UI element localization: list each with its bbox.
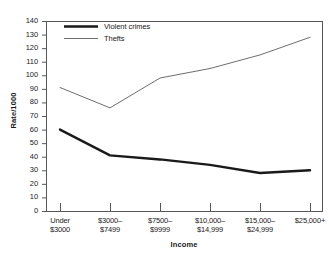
y-axis-tick-label: 120 <box>16 44 38 52</box>
y-axis-tick-label: 110 <box>16 58 38 66</box>
y-axis-tick-label: 100 <box>16 71 38 79</box>
legend-label-violent-crimes: Violent crimes <box>104 22 150 31</box>
y-axis-tick-label: 40 <box>16 153 38 161</box>
series-line-violent-crimes <box>60 130 310 173</box>
y-axis-tick-label: 70 <box>16 112 38 120</box>
y-axis-tick-label: 80 <box>16 98 38 106</box>
y-axis-tick-label: 50 <box>16 139 38 147</box>
y-axis-tick-label: 30 <box>16 166 38 174</box>
x-axis-title: Income <box>46 240 322 249</box>
x-axis-tick-label: $10,000– $14,999 <box>184 216 236 235</box>
legend-label-thefts: Thefts <box>104 34 125 43</box>
x-axis-tick-label: $25,000+ <box>284 216 329 225</box>
x-axis-tick-label: $15,000– $24,999 <box>234 216 286 235</box>
series-line-thefts <box>60 37 310 108</box>
y-axis-tick-label: 0 <box>16 207 38 215</box>
crime-rate-by-income-chart: Rate/1000 Income 01020304050607080901001… <box>0 0 329 259</box>
y-axis-tick-label: 10 <box>16 193 38 201</box>
y-axis-tick-label: 60 <box>16 126 38 134</box>
x-axis-tick-label: $7500– $9999 <box>134 216 186 235</box>
y-axis-tick-label: 130 <box>16 31 38 39</box>
x-axis-tick-label: Under $3000 <box>34 216 86 235</box>
plot-frame <box>47 22 323 212</box>
y-axis-tick-label: 90 <box>16 85 38 93</box>
y-axis-tick-label: 20 <box>16 180 38 188</box>
x-axis-tick-label: $3000– $7499 <box>84 216 136 235</box>
y-axis-tick-label: 140 <box>16 17 38 25</box>
